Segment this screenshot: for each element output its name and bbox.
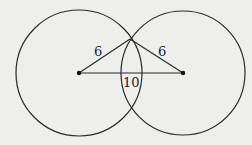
diagram-canvas: 6 6 10 [0,0,252,145]
left-radius-label: 6 [94,44,102,59]
geometry-figure: 6 6 10 [0,0,252,145]
left-center-point [77,71,81,75]
left-radius-segment [79,39,130,73]
right-radius-segment [130,39,183,73]
right-radius-label: 6 [158,44,166,59]
center-distance-label: 10 [123,75,140,90]
right-center-point [181,71,185,75]
